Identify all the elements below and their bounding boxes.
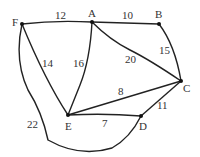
- edge-A-B: [92, 22, 159, 24]
- node-D: [139, 114, 143, 118]
- edge-weight-F-E: 14: [42, 58, 53, 69]
- edge-weight-A-E: 16: [73, 58, 84, 69]
- node-label-F: F: [12, 17, 18, 28]
- node-label-C: C: [183, 83, 190, 94]
- edge-weight-D-C: 11: [157, 100, 168, 111]
- node-B: [157, 22, 161, 26]
- edge-weight-B-C: 15: [159, 45, 170, 56]
- node-A: [90, 20, 94, 24]
- node-label-D: D: [139, 121, 147, 132]
- edge-weight-E-D: 7: [102, 118, 108, 129]
- node-label-A: A: [88, 8, 96, 19]
- node-label-E: E: [65, 121, 72, 132]
- edge-E-D: [68, 114, 141, 116]
- node-E: [66, 113, 70, 117]
- edge-F-A: [22, 21, 92, 24]
- node-F: [20, 22, 24, 26]
- edge-weight-A-B: 10: [122, 10, 133, 21]
- edge-weight-F-A: 12: [55, 10, 66, 21]
- edge-weight-E-C: 8: [118, 86, 124, 97]
- graph-edges: [0, 0, 200, 157]
- edge-F-E: [22, 24, 68, 115]
- node-label-B: B: [155, 9, 162, 20]
- edge-weight-A-C: 20: [125, 54, 136, 65]
- edge-weight-F-D: 22: [27, 119, 38, 130]
